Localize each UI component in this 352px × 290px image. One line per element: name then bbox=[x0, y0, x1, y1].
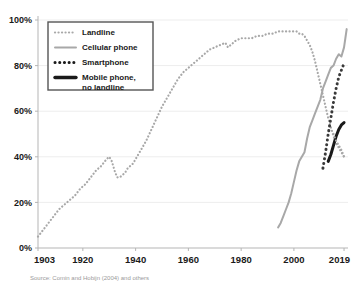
y-tick-label: 80% bbox=[14, 61, 32, 71]
legend-label-3-line2: no landline bbox=[82, 83, 125, 92]
y-tick-label: 60% bbox=[14, 106, 32, 116]
x-tick-label: 1903 bbox=[34, 254, 55, 265]
legend-label-2: Smartphone bbox=[82, 58, 129, 67]
y-tick-label: 20% bbox=[14, 198, 32, 208]
x-tick-label: 1980 bbox=[231, 254, 252, 265]
line-chart: 0%20%40%60%80%100% 190319201940196019802… bbox=[0, 0, 352, 290]
y-tick-label: 0% bbox=[19, 243, 32, 253]
y-tick-label: 40% bbox=[14, 152, 32, 162]
y-tick-label: 100% bbox=[9, 15, 32, 25]
legend-label-3: Mobile phone, bbox=[82, 73, 136, 82]
legend-label-1: Cellular phone bbox=[82, 43, 138, 52]
source-caption: Source: Comin and Hobijn (2004) and othe… bbox=[30, 275, 149, 281]
legend-label-0: Landline bbox=[82, 28, 115, 37]
chart-legend: LandlineCellular phoneSmartphoneMobile p… bbox=[48, 22, 153, 92]
x-tick-label: 1960 bbox=[178, 254, 199, 265]
x-tick-label: 2000 bbox=[283, 254, 304, 265]
chart-container: 0%20%40%60%80%100% 190319201940196019802… bbox=[0, 0, 352, 290]
x-tick-label: 2019 bbox=[329, 254, 350, 265]
x-axis-tick-labels: 1903192019401960198020002019 bbox=[34, 254, 350, 265]
x-tick-label: 1920 bbox=[72, 254, 93, 265]
x-tick-label: 1940 bbox=[125, 254, 146, 265]
